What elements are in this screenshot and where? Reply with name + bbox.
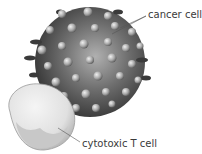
immune-synapse-diagram [0,0,202,154]
cancer-cell-label: cancer cell [148,9,202,20]
t-cell-label: cytotoxic T cell [82,138,157,149]
